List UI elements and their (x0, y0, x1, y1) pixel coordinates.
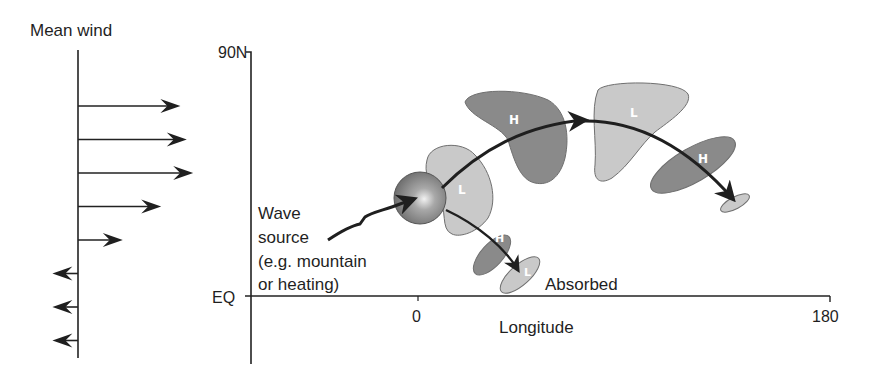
y-axis (246, 52, 251, 364)
y-label-eq: EQ (212, 289, 235, 306)
anomaly-label: H (509, 113, 519, 127)
source-label-line3: (e.g. mountain (258, 252, 367, 271)
anomaly-label: L (630, 106, 638, 120)
wave-source-sphere (394, 172, 446, 224)
absorbed-label: Absorbed (545, 275, 618, 294)
x-axis-label: Longitude (499, 318, 574, 337)
x-tick-label-0: 0 (412, 308, 421, 325)
y-label-90n: 90N (218, 44, 247, 61)
low-blob (718, 190, 752, 216)
source-arrow (328, 199, 414, 240)
anomaly-label: H (698, 152, 708, 166)
anomaly-L3 (718, 190, 752, 216)
source-label-line4: or heating) (258, 275, 339, 294)
anomaly-label: L (458, 183, 466, 197)
source-label-line1: Wave (258, 204, 301, 223)
x-tick-label-180: 180 (812, 308, 839, 325)
mean-wind-title: Mean wind (30, 21, 112, 40)
anomaly-label: L (524, 266, 531, 279)
rossby-wave-diagram: Mean wind 90N EQ 0 180 Longitude L H L H… (0, 0, 879, 373)
source-label-line2: source (258, 228, 309, 247)
wind-arrows (52, 99, 193, 348)
